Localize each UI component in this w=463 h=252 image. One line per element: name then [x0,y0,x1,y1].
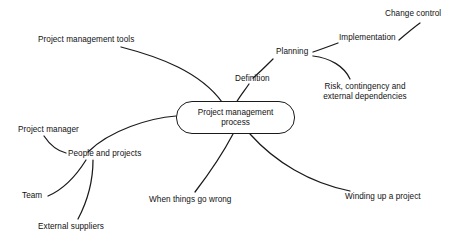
edge-center-to-when-things-go-wrong [195,134,233,192]
node-risk-contingency-line-2: external dependencies [323,92,406,101]
node-project-manager[interactable]: Project manager [18,125,79,135]
node-project-management-tools[interactable]: Project management tools [38,35,134,45]
node-planning[interactable]: Planning [276,47,308,57]
node-risk-contingency-line-1: Risk, contingency and [324,82,405,91]
edge-people-to-project-manager [44,136,66,153]
mind-map-canvas: Project management process Project manag… [0,0,463,252]
edge-planning-to-risk [313,56,350,79]
node-people-and-projects[interactable]: People and projects [68,149,141,159]
edge-implementation-to-change-control [399,23,420,40]
node-winding-up-a-project[interactable]: Winding up a project [345,192,421,202]
edge-planning-to-implementation [313,43,338,52]
node-implementation[interactable]: Implementation [339,33,396,43]
edge-center-to-winding-up [250,134,350,191]
center-node[interactable]: Project management process [176,101,295,134]
center-node-text: Project management process [198,108,274,128]
node-risk-contingency[interactable]: Risk, contingency and external dependenc… [310,82,420,101]
node-when-things-go-wrong[interactable]: When things go wrong [149,195,231,205]
node-external-suppliers[interactable]: External suppliers [38,222,104,232]
edge-center-to-tools [121,47,222,102]
node-definition[interactable]: Definition [235,74,270,84]
edge-people-to-team [48,160,86,196]
edge-center-to-people-and-projects [88,116,176,152]
node-change-control[interactable]: Change control [385,9,441,19]
center-node-line-2: process [221,118,250,127]
node-team[interactable]: Team [22,191,42,201]
center-node-line-1: Project management [198,108,274,117]
